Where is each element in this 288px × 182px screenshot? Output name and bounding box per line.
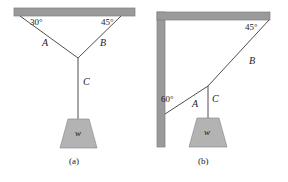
cable-a-label-a: A	[42, 38, 48, 48]
angle-wall-label-b: 60°	[161, 95, 174, 104]
weight-label-b: w	[204, 128, 210, 137]
ceiling-bar-a	[14, 8, 135, 16]
ceiling-bar-b	[157, 12, 270, 20]
cable-b-label-b: B	[249, 56, 255, 66]
angle-ceiling-label-b: 45°	[245, 23, 258, 32]
wall-vertical-b	[157, 12, 165, 147]
angle-right-label-a: 45°	[101, 18, 114, 27]
weight-label-a: w	[75, 129, 81, 138]
cable-a-label-b: A	[192, 99, 198, 109]
cable-c-label-b: C	[212, 94, 219, 104]
cable-b-line	[208, 20, 269, 86]
physics-figure: 30° 45° A B C w (a) 60° 45° A B C w (b)	[0, 0, 288, 182]
angle-left-label-a: 30°	[30, 18, 43, 27]
panel-a	[14, 8, 135, 148]
panel-b	[157, 12, 270, 147]
cable-b-label-a: B	[100, 38, 106, 48]
cable-a-line	[20, 16, 78, 58]
panel-caption-b: (b)	[198, 157, 209, 166]
panel-caption-a: (a)	[69, 157, 79, 166]
cable-c-label-a: C	[83, 77, 90, 87]
